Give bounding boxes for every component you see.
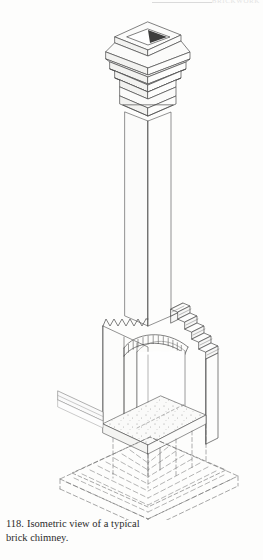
figure-number: 118. bbox=[6, 518, 24, 529]
chimney-isometric-svg bbox=[0, 8, 263, 520]
book-page: BRICKWORK bbox=[0, 0, 263, 560]
trimmer-beam bbox=[58, 391, 103, 428]
chimney-cap bbox=[106, 22, 190, 99]
figure-caption-line-1: Isometric view of a bbox=[27, 518, 108, 529]
figure-caption: 118.Isometric view of a typical brick ch… bbox=[6, 517, 156, 544]
chimney-shaft bbox=[125, 112, 171, 326]
figure-drawing bbox=[0, 8, 263, 520]
running-head: BRICKWORK bbox=[150, 0, 260, 6]
